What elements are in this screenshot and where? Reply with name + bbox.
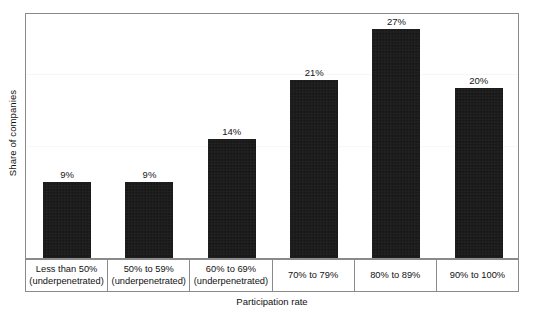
category-label-primary: Less than 50% [36,264,98,276]
bar-series: 9%9%14%21%27%20% [26,14,518,258]
x-axis-category-cell: Less than 50%(underpenetrated) [26,260,108,291]
bar-value-label: 9% [143,169,157,180]
bar-value-label: 27% [387,16,406,27]
bar-group: 14% [191,14,273,258]
bar-group: 21% [273,14,355,258]
x-axis-category-cell: 90% to 100% [437,260,518,291]
category-label-qualifier: (underpenetrated) [112,276,186,288]
x-axis-category-cell: 50% to 59%(underpenetrated) [108,260,190,291]
bar-group: 20% [438,14,520,258]
bar-group: 27% [355,14,437,258]
y-axis-title: Share of companies [6,10,20,256]
bar [125,182,173,258]
bar-value-label: 20% [469,75,488,86]
bar [208,139,256,258]
bar [455,88,503,258]
category-label-primary: 90% to 100% [450,270,505,282]
category-label-primary: 70% to 79% [288,270,338,282]
bar-chart-figure: Share of companies 9%9%14%21%27%20% Less… [0,0,539,312]
bar [290,80,338,258]
category-label-primary: 50% to 59% [124,264,174,276]
x-axis-category-cell: 70% to 79% [273,260,355,291]
x-axis-category-cell: 80% to 89% [355,260,437,291]
bar [372,29,420,258]
bar-value-label: 9% [60,169,74,180]
bar [43,182,91,258]
bar-group: 9% [26,14,108,258]
x-axis-title: Participation rate [25,296,519,307]
category-label-qualifier: (underpenetrated) [194,276,268,288]
category-label-primary: 60% to 69% [206,264,256,276]
bar-value-label: 21% [305,67,324,78]
x-axis-category-cell: 60% to 69%(underpenetrated) [190,260,272,291]
bar-group: 9% [108,14,190,258]
category-label-qualifier: (underpenetrated) [29,276,103,288]
bar-value-label: 14% [222,126,241,137]
category-label-primary: 80% to 89% [370,270,420,282]
plot-area: 9%9%14%21%27%20% [25,13,519,259]
x-axis-category-table: Less than 50%(underpenetrated)50% to 59%… [25,259,519,292]
